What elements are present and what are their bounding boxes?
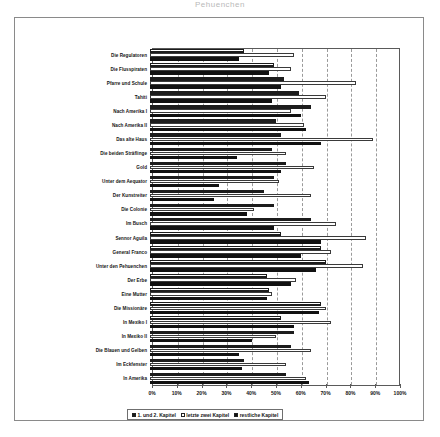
x-tick-20 <box>202 384 203 388</box>
bar-2 <box>150 152 286 156</box>
x-axis-label: 40% <box>246 390 256 396</box>
bar-group <box>150 315 398 329</box>
bar-2 <box>150 321 331 325</box>
bar-group <box>150 344 398 358</box>
bar-1 <box>150 162 286 166</box>
category-label: Im Eckfenster <box>35 362 150 367</box>
legend-item-2: restliche Kapitel <box>234 412 278 418</box>
bar-1 <box>150 260 326 264</box>
bar-2 <box>150 250 331 254</box>
category-rows: Die RegulatorenDie FlusspiratenPfarre un… <box>35 48 400 386</box>
x-axis-label: 70% <box>321 390 331 396</box>
category-label: Eine Mutter <box>35 292 150 297</box>
chart-row: Nach Amerika II <box>35 118 400 132</box>
bar-3 <box>150 297 267 301</box>
bar-2 <box>150 292 272 296</box>
chart-row: Pfarre und Schule <box>35 76 400 90</box>
chart-row: Unter den Pehuenchen <box>35 259 400 273</box>
category-label: Im Busch <box>35 221 150 226</box>
bar-1 <box>150 49 244 53</box>
bar-group <box>150 259 398 273</box>
chart-row: Die Regulatoren <box>35 48 400 62</box>
category-label: In Mexiko II <box>35 334 150 339</box>
bar-3 <box>150 240 321 244</box>
category-label: Das alte Haus <box>35 137 150 142</box>
x-tick-30 <box>226 384 227 388</box>
bar-group <box>150 217 398 231</box>
bar-3 <box>150 156 237 160</box>
x-tick-40 <box>251 384 252 388</box>
bar-2 <box>150 109 291 113</box>
legend-label-2: restliche Kapitel <box>240 412 279 418</box>
bar-3 <box>150 325 294 329</box>
legend-swatch-hatched-icon <box>132 413 136 417</box>
bar-3 <box>150 212 247 216</box>
bar-1 <box>150 302 321 306</box>
bar-3 <box>150 367 242 371</box>
category-label: In Mexiko I <box>35 320 150 325</box>
bar-group <box>150 104 398 118</box>
category-label: Nach Amerika I <box>35 109 150 114</box>
category-label: Tahiti <box>35 95 150 100</box>
category-label: Nach Amerika II <box>35 123 150 128</box>
bar-group <box>150 132 398 146</box>
bar-group <box>150 175 398 189</box>
bar-3 <box>150 268 316 272</box>
bar-3 <box>150 57 239 61</box>
chart-legend: 1. und 2. Kapitel letzte zwei Kapitel re… <box>127 409 283 420</box>
bar-1 <box>150 232 281 236</box>
bar-3 <box>150 142 321 146</box>
x-axis-label: 100% <box>394 390 407 396</box>
bar-group <box>150 90 398 104</box>
bar-1 <box>150 91 299 95</box>
bar-2 <box>150 53 294 57</box>
bar-group <box>150 273 398 287</box>
bar-group <box>150 48 398 62</box>
bar-1 <box>150 288 269 292</box>
bar-1 <box>150 218 311 222</box>
chart-frame: Die RegulatorenDie FlusspiratenPfarre un… <box>14 17 424 421</box>
bar-3 <box>150 381 309 385</box>
bar-group <box>150 203 398 217</box>
bar-group <box>150 189 398 203</box>
legend-item-0: 1. und 2. Kapitel <box>132 412 176 418</box>
x-tick-90 <box>375 384 376 388</box>
chart-row: Die Missionäre <box>35 301 400 315</box>
x-tick-50 <box>276 384 277 388</box>
bar-3 <box>150 85 281 89</box>
bar-2 <box>150 138 373 142</box>
bar-2 <box>150 180 279 184</box>
bar-3 <box>150 339 252 343</box>
chart-row: Die Blauen und Gelben <box>35 344 400 358</box>
bar-3 <box>150 184 219 188</box>
bar-3 <box>150 114 301 118</box>
legend-swatch-black-icon <box>234 413 238 417</box>
bar-group <box>150 301 398 315</box>
bar-1 <box>150 246 321 250</box>
x-axis-label: 90% <box>370 390 380 396</box>
bar-2 <box>150 208 254 212</box>
bar-3 <box>150 282 291 286</box>
bar-2 <box>150 123 304 127</box>
x-tick-10 <box>177 384 178 388</box>
bar-group <box>150 287 398 301</box>
bar-group <box>150 330 398 344</box>
bar-3 <box>150 353 239 357</box>
chart-row: Im Busch <box>35 217 400 231</box>
bar-2 <box>150 307 326 311</box>
category-label: Der Erbe <box>35 278 150 283</box>
category-label: Unter den Pehuenchen <box>35 264 150 269</box>
legend-label-0: 1. und 2. Kapitel <box>138 412 176 418</box>
bar-3 <box>150 170 281 174</box>
x-axis-label: 50% <box>271 390 281 396</box>
category-label: Unter dem Aequator <box>35 179 150 184</box>
bar-2 <box>150 335 276 339</box>
chart-row: Der Erbe <box>35 273 400 287</box>
bar-2 <box>150 236 366 240</box>
chart-row: Die beiden Sträflinge <box>35 147 400 161</box>
bar-group <box>150 372 398 386</box>
bar-3 <box>150 128 306 132</box>
x-axis-label: 80% <box>345 390 355 396</box>
bar-2 <box>150 363 286 367</box>
x-axis-label: 60% <box>296 390 306 396</box>
